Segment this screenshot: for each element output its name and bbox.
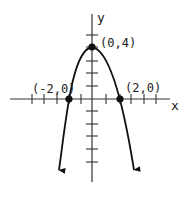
left-root-label: (-2,0) [32,82,75,96]
y-axis-label: y [97,10,105,25]
right-root-label: (2,0) [125,81,161,95]
x-axis-label: x [171,98,179,113]
vertex-point [88,43,95,50]
parabola-graph: y x (0,4) (-2,0) (2,0) [0,0,193,197]
right-root-point [116,95,123,102]
left-root-point [65,95,72,102]
vertex-label: (0,4) [100,36,136,50]
parabola-curve [59,47,134,170]
